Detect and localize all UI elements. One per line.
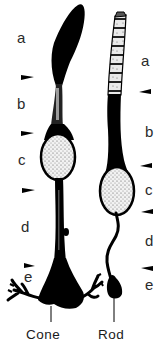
arrowhead-icon bbox=[22, 188, 35, 193]
arrowhead-icon bbox=[21, 131, 34, 136]
arrowhead-icon bbox=[141, 266, 153, 271]
photoreceptor-diagram: a b c d e a b c d e Cone Rod bbox=[0, 0, 157, 349]
cone-label-b: b bbox=[17, 95, 25, 112]
cone-nucleus bbox=[41, 134, 75, 180]
rod-label-e: e bbox=[145, 276, 153, 293]
cone-label-d: d bbox=[21, 218, 29, 235]
cone-pedicle bbox=[38, 258, 84, 309]
rod-label-c: c bbox=[145, 181, 153, 198]
rod-label-a: a bbox=[141, 52, 150, 69]
rod-segment-labels: a b c d e bbox=[139, 52, 153, 293]
arrowhead-icon bbox=[140, 163, 152, 168]
arrowhead-icon bbox=[141, 209, 153, 214]
cone-label-e: e bbox=[24, 268, 32, 285]
cone-axon bbox=[54, 178, 66, 262]
cone-outer-segment bbox=[52, 4, 85, 86]
rod-cell bbox=[100, 12, 134, 322]
arrowhead-icon bbox=[139, 89, 151, 94]
rod-axon bbox=[107, 213, 118, 282]
rod-label-d: d bbox=[145, 232, 153, 249]
cone-label-a: a bbox=[17, 29, 26, 46]
rod-inner-segment bbox=[104, 94, 130, 176]
rod-caption: Rod bbox=[98, 327, 124, 342]
rod-label-b: b bbox=[145, 123, 153, 140]
rod-nucleus bbox=[100, 167, 134, 215]
rod-outer-segment bbox=[108, 15, 126, 95]
cone-label-c: c bbox=[18, 151, 26, 168]
rod-spherule bbox=[107, 275, 122, 299]
cone-caption: Cone bbox=[26, 327, 60, 342]
cone-segment-labels: a b c d e bbox=[17, 29, 35, 285]
arrowhead-icon bbox=[21, 75, 34, 80]
